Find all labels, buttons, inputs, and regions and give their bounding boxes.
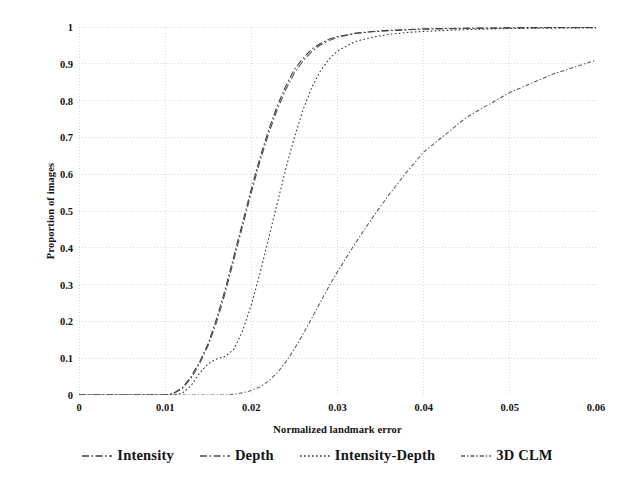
gridlines	[79, 27, 596, 395]
chart-container: Proportion of images 0 0.1 0.2 0.3 0.4 0…	[0, 0, 635, 492]
plot-area	[79, 27, 596, 395]
series-line-3d-clm	[79, 60, 596, 395]
x-tick-0: 0	[76, 402, 81, 413]
x-tick-6: 0.06	[587, 402, 605, 413]
y-tick-7: 0.7	[0, 132, 79, 143]
legend-label: Intensity	[117, 447, 174, 464]
y-tick-8: 0.8	[0, 95, 79, 106]
y-tick-0: 0	[0, 390, 79, 401]
x-tick-3: 0.03	[328, 402, 346, 413]
legend-item-3d-clm[interactable]: 3D CLM	[461, 447, 552, 464]
x-axis-title: Normalized landmark error	[79, 424, 596, 435]
legend-label: Intensity-Depth	[335, 447, 435, 464]
y-tick-1: 0.1	[0, 353, 79, 364]
y-tick-9: 0.9	[0, 58, 79, 69]
legend-swatch-icon	[200, 451, 230, 461]
legend-label: 3D CLM	[496, 447, 552, 464]
y-tick-5: 0.5	[0, 206, 79, 217]
chart-legend: IntensityDepthIntensity-Depth3D CLM	[0, 447, 635, 464]
x-tick-4: 0.04	[415, 402, 433, 413]
y-tick-4: 0.4	[0, 242, 79, 253]
y-tick-3: 0.3	[0, 279, 79, 290]
x-tick-1: 0.01	[156, 402, 174, 413]
legend-label: Depth	[235, 447, 274, 464]
y-tick-10: 1	[0, 22, 79, 33]
y-axis-ticks: 0 0.1 0.2 0.3 0.4 0.5 0.6 0.7 0.8 0.9 1	[0, 0, 79, 492]
x-tick-5: 0.05	[501, 402, 519, 413]
x-tick-2: 0.02	[242, 402, 260, 413]
legend-swatch-icon	[82, 451, 112, 461]
legend-item-depth[interactable]: Depth	[200, 447, 274, 464]
legend-item-intensity-depth[interactable]: Intensity-Depth	[300, 447, 435, 464]
legend-item-intensity[interactable]: Intensity	[82, 447, 174, 464]
y-tick-6: 0.6	[0, 169, 79, 180]
y-tick-2: 0.2	[0, 316, 79, 327]
legend-swatch-icon	[300, 451, 330, 461]
legend-swatch-icon	[461, 451, 491, 461]
